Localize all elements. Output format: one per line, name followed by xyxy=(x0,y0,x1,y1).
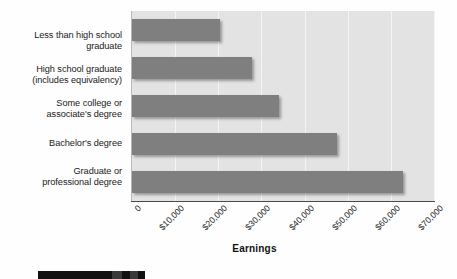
x-axis-tick-labels: 0$10,000$20,000$30,000$40,000$50,000$60,… xyxy=(0,201,457,247)
plot-area xyxy=(132,11,434,201)
bar[interactable] xyxy=(132,19,220,41)
footer-band-segment xyxy=(130,271,138,279)
category-label-line: High school graduate xyxy=(0,64,122,75)
bar[interactable] xyxy=(132,171,403,193)
bar-row xyxy=(132,171,434,193)
footer-band-segment xyxy=(112,271,122,279)
bar-row xyxy=(132,57,434,79)
x-tick-label: $70,000 xyxy=(416,203,445,232)
category-axis-labels: Less than high school graduate High scho… xyxy=(0,8,128,203)
category-label-line: Bachelor's degree xyxy=(0,138,122,149)
chart-screenshot: Less than high school graduate High scho… xyxy=(0,0,457,279)
x-tick-label: 0 xyxy=(133,203,143,213)
x-tick-label: $50,000 xyxy=(330,203,359,232)
bar-row xyxy=(132,95,434,117)
category-label-bachelors-degree: Bachelor's degree xyxy=(0,138,122,149)
bars-layer xyxy=(132,11,434,201)
category-label-less-than-high-school: Less than high school graduate xyxy=(0,30,122,52)
category-label-graduate-professional: Graduate or professional degree xyxy=(0,166,122,188)
category-label-line: (includes equivalency) xyxy=(0,75,122,86)
x-tick-label: $60,000 xyxy=(373,203,402,232)
bar[interactable] xyxy=(132,95,279,117)
x-tick-label: $40,000 xyxy=(287,203,316,232)
bar-row xyxy=(132,19,434,41)
category-label-line: associate's degree xyxy=(0,109,122,120)
category-label-line: Graduate or xyxy=(0,166,122,177)
bar[interactable] xyxy=(132,57,252,79)
category-label-line: professional degree xyxy=(0,177,122,188)
footer-band-artifact xyxy=(38,271,145,279)
x-tick-label: $10,000 xyxy=(157,203,186,232)
x-tick-label: $20,000 xyxy=(200,203,229,232)
x-tick-label: $30,000 xyxy=(243,203,272,232)
category-label-high-school-graduate: High school graduate (includes equivalen… xyxy=(0,64,122,86)
x-axis-title: Earnings xyxy=(0,243,457,254)
category-label-line: graduate xyxy=(0,41,122,52)
category-label-line: Some college or xyxy=(0,98,122,109)
category-label-some-college: Some college or associate's degree xyxy=(0,98,122,120)
category-label-line: Less than high school xyxy=(0,30,122,41)
gridline xyxy=(434,11,435,201)
bar[interactable] xyxy=(132,133,337,155)
bar-row xyxy=(132,133,434,155)
x-axis-title-text: Earnings xyxy=(232,243,276,254)
